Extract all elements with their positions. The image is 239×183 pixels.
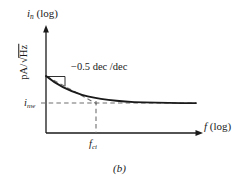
plot-canvas — [0, 0, 239, 183]
figure-caption: (b) — [0, 163, 239, 174]
y-units-radicand: Hz — [18, 44, 30, 58]
y-axis-label: in (log) — [27, 8, 58, 20]
y-axis-scale: (log) — [37, 7, 58, 19]
noise-spectrum-figure: in (log) pA/√Hz inw −0.5 dec /dec fci f … — [0, 0, 239, 183]
noise-curve — [46, 76, 196, 103]
x-tick-label-fci: fci — [89, 139, 97, 151]
y-units-prefix: pA/ — [18, 64, 29, 80]
sqrt-icon: √Hz — [18, 44, 30, 64]
y-axis — [43, 25, 49, 133]
y-axis-units-label: pA/√Hz — [18, 35, 30, 89]
y-tick-label-inw: inw — [24, 98, 35, 110]
y-axis-arrowhead — [43, 25, 49, 33]
slope-annotation: −0.5 dec /dec — [71, 62, 127, 73]
x-axis-scale: (log) — [210, 120, 231, 132]
inw-subscript: nw — [27, 102, 35, 110]
x-axis — [46, 130, 203, 136]
fci-subscript: ci — [92, 143, 97, 151]
x-axis-arrowhead — [196, 130, 204, 136]
x-axis-label: f (log) — [204, 121, 231, 132]
flicker-asymptote-dashed — [47, 77, 97, 105]
